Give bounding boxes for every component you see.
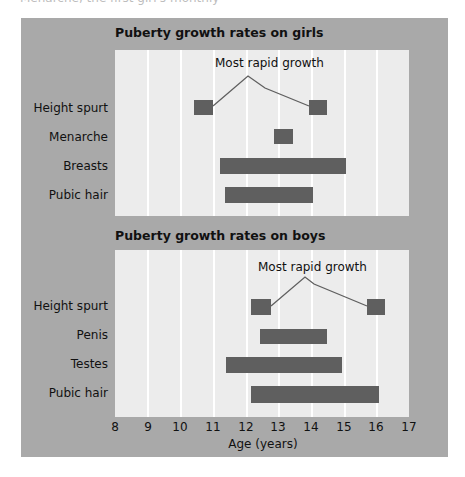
boys-penis-bar bbox=[260, 329, 327, 344]
boys-height-spurt-start-bar bbox=[251, 299, 271, 315]
girls-menarche-bar bbox=[274, 129, 293, 144]
boys-row-label-height-spurt: Height spurt bbox=[33, 299, 108, 313]
girls-row-label-height-spurt: Height spurt bbox=[33, 101, 108, 115]
x-tick-8: 8 bbox=[111, 420, 119, 434]
boys-row-label-pubic-hair: Pubic hair bbox=[49, 386, 108, 400]
boys-plot-area: Most rapid growth bbox=[115, 250, 409, 417]
cut-off-caption: Menarche, the first girl's monthly bbox=[20, 0, 219, 5]
x-tick-10: 10 bbox=[172, 420, 187, 434]
x-tick-14: 14 bbox=[303, 420, 318, 434]
x-axis-label: Age (years) bbox=[228, 437, 297, 451]
x-tick-12: 12 bbox=[238, 420, 253, 434]
girls-pubic-hair-bar bbox=[225, 187, 313, 203]
girls-row-label-menarche: Menarche bbox=[49, 130, 108, 144]
boys-row-label-testes: Testes bbox=[71, 357, 108, 371]
boys-testes-bar bbox=[226, 357, 342, 373]
figure-panel: Puberty growth rates on girls Most rapid… bbox=[21, 18, 448, 457]
x-tick-15: 15 bbox=[336, 420, 351, 434]
x-tick-11: 11 bbox=[205, 420, 220, 434]
x-tick-16: 16 bbox=[368, 420, 383, 434]
boys-height-spurt-end-bar bbox=[367, 299, 385, 315]
x-tick-17: 17 bbox=[401, 420, 416, 434]
girls-height-spurt-end-bar bbox=[309, 100, 327, 115]
girls-row-label-pubic-hair: Pubic hair bbox=[49, 188, 108, 202]
x-tick-9: 9 bbox=[144, 420, 152, 434]
boys-chart-title: Puberty growth rates on boys bbox=[115, 228, 325, 243]
x-tick-13: 13 bbox=[270, 420, 285, 434]
girls-chart-title: Puberty growth rates on girls bbox=[115, 25, 323, 40]
girls-plot-area: Most rapid growth bbox=[115, 50, 409, 216]
boys-pubic-hair-bar bbox=[251, 386, 379, 403]
girls-height-spurt-start-bar bbox=[194, 100, 213, 115]
girls-row-label-breasts: Breasts bbox=[63, 159, 108, 173]
boys-row-label-penis: Penis bbox=[77, 328, 108, 342]
girls-breasts-bar bbox=[220, 158, 346, 174]
